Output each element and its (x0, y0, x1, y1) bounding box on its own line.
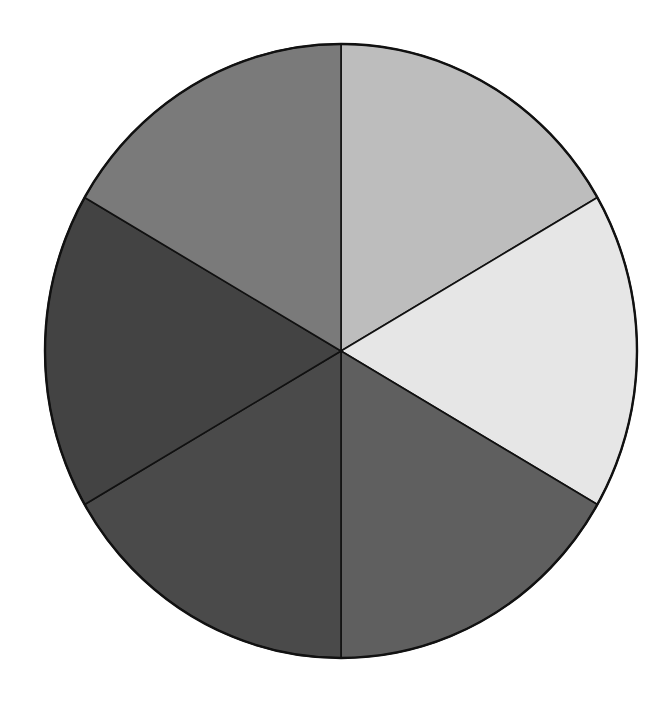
pie-chart-canvas (0, 0, 665, 701)
pie-chart (0, 0, 665, 701)
pie-slices (45, 44, 637, 658)
